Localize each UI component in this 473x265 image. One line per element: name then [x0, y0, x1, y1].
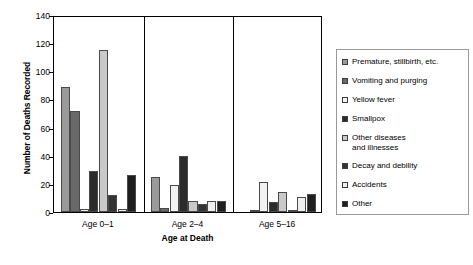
- bar: [198, 204, 207, 212]
- y-tick-label: 20: [0, 181, 50, 189]
- bar: [207, 201, 216, 212]
- bar: [151, 177, 160, 212]
- x-axis-title: Age at Death: [53, 233, 322, 243]
- legend-item-label: Other: [352, 199, 372, 209]
- bar: [170, 185, 179, 212]
- legend-swatch-icon: [342, 182, 348, 188]
- bar: [297, 197, 306, 212]
- legend-swatch-icon: [342, 116, 348, 122]
- bar: [278, 192, 287, 212]
- bar: [89, 171, 98, 212]
- page-caption-fragment: [10, 252, 430, 263]
- bar-group: [54, 17, 144, 212]
- legend-item-label: Premature, stillbirth, etc.: [352, 57, 438, 67]
- bar: [99, 50, 108, 212]
- legend-item[interactable]: Vomiting and purging: [342, 76, 427, 86]
- x-tick-label: Age 2–4: [143, 219, 233, 229]
- legend-item-label: Decay and debility: [352, 161, 417, 171]
- legend-item-label: Accidents: [352, 180, 387, 190]
- y-tick-label: 0: [0, 209, 50, 217]
- plot-inner: [54, 17, 321, 212]
- chart-figure: Number of Deaths Recorded 02040608010012…: [0, 0, 473, 265]
- legend-item[interactable]: Accidents: [342, 180, 387, 190]
- y-tick-label: 120: [0, 40, 50, 48]
- legend-swatch-icon: [342, 201, 348, 207]
- chart-legend: Premature, stillbirth, etc.Vomiting and …: [336, 49, 469, 215]
- legend-item-label: Other diseases and illnesses: [352, 133, 406, 152]
- x-tick-label: Age 0–1: [53, 219, 143, 229]
- legend-item[interactable]: Yellow fever: [342, 95, 395, 105]
- legend-item[interactable]: Decay and debility: [342, 161, 417, 171]
- bar: [127, 175, 136, 212]
- bar: [80, 209, 89, 212]
- legend-item[interactable]: Other diseases and illnesses: [342, 133, 406, 152]
- bar: [108, 195, 117, 212]
- y-tick-label: 80: [0, 96, 50, 104]
- bar: [217, 201, 226, 212]
- legend-item-label: Yellow fever: [352, 95, 395, 105]
- bar-group: [233, 17, 323, 212]
- bar: [250, 210, 259, 212]
- y-tick-label: 40: [0, 153, 50, 161]
- bar: [160, 208, 169, 212]
- bar: [118, 209, 127, 212]
- legend-swatch-icon: [342, 135, 348, 141]
- bar-group: [144, 17, 234, 212]
- bar: [70, 111, 79, 212]
- y-tick-mark: [49, 213, 53, 214]
- bar: [179, 156, 188, 212]
- legend-item[interactable]: Premature, stillbirth, etc.: [342, 57, 438, 67]
- legend-item-label: Vomiting and purging: [352, 76, 427, 86]
- plot-area: [53, 16, 322, 213]
- y-tick-label: 60: [0, 125, 50, 133]
- y-tick-label: 100: [0, 68, 50, 76]
- legend-item[interactable]: Smallpox: [342, 114, 385, 124]
- y-axis-title: Number of Deaths Recorded: [22, 33, 32, 203]
- legend-swatch-icon: [342, 78, 348, 84]
- bar: [288, 210, 297, 212]
- legend-item[interactable]: Other: [342, 199, 372, 209]
- legend-item-label: Smallpox: [352, 114, 385, 124]
- bar: [259, 182, 268, 212]
- bar: [188, 201, 197, 212]
- bar: [269, 202, 278, 212]
- x-tick-label: Age 5–16: [232, 219, 322, 229]
- y-tick-label: 140: [0, 12, 50, 20]
- legend-swatch-icon: [342, 59, 348, 65]
- legend-swatch-icon: [342, 163, 348, 169]
- legend-swatch-icon: [342, 97, 348, 103]
- bar: [61, 87, 70, 212]
- bar: [307, 194, 316, 212]
